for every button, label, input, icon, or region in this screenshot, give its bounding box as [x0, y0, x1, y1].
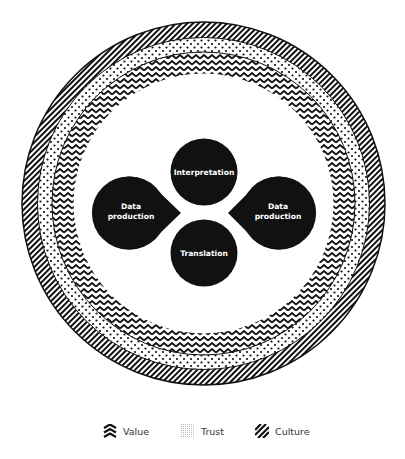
- legend-label-value: Value: [123, 426, 149, 437]
- legend-label-trust: Trust: [201, 426, 224, 437]
- legend-label-culture: Culture: [275, 426, 310, 437]
- node-translation: Translation: [171, 220, 238, 287]
- node-interpretation: Interpretation: [171, 139, 238, 206]
- ring-diagram: Interpretation Translation Data producti…: [0, 0, 405, 400]
- node-data-production-left-line2: production: [108, 212, 155, 221]
- node-interpretation-label: Interpretation: [174, 168, 235, 177]
- legend: Value Trust Culture: [0, 420, 405, 442]
- legend-item-culture: Culture: [255, 420, 310, 442]
- legend-item-value: Value: [103, 420, 149, 442]
- dots-pattern-icon: [181, 424, 195, 438]
- stripes-pattern-icon: [255, 424, 269, 438]
- node-data-production-left-line1: Data: [121, 202, 141, 211]
- node-data-production-right-line1: Data: [268, 202, 288, 211]
- legend-item-trust: Trust: [181, 420, 224, 442]
- node-data-production-right-line2: production: [255, 212, 302, 221]
- chevron-pattern-icon: [103, 424, 117, 438]
- node-translation-label: Translation: [180, 249, 228, 258]
